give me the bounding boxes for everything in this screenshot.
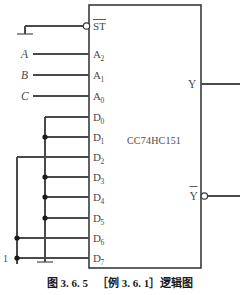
output-label-ybar: Y: [190, 190, 199, 202]
pin-sub-d4: 4: [101, 197, 105, 206]
pin-sub-d2: 2: [101, 157, 105, 166]
pin-sub-a1: 1: [101, 75, 105, 84]
logic-one-label: 1: [3, 253, 8, 264]
junction-dot-d7: [14, 255, 19, 260]
pin-sub-d6: 6: [101, 238, 105, 247]
chip-part-number: CC74HC151: [127, 135, 181, 146]
pin-sub-d3: 3: [101, 177, 105, 186]
output-label-y: Y: [188, 78, 197, 90]
junction-dot-d1: [42, 134, 47, 139]
caption-number: 图 3. 6. 5: [47, 277, 88, 289]
junction-dot-d6: [14, 235, 19, 240]
junction-dot-d5: [42, 215, 47, 220]
st-pin-label: ST: [93, 20, 106, 32]
signal-label-c: C: [21, 90, 29, 102]
logic-diagram: ST A B C A 2 A 1 A 0 D 0 D 1 D 2 D 3 D 4…: [0, 0, 240, 295]
figure-caption: 图 3. 6. 5［例 3. 6. 1］逻辑图: [0, 274, 240, 290]
pin-sub-d0: 0: [101, 117, 105, 126]
junction-dot-d3: [42, 174, 47, 179]
pin-sub-d1: 1: [101, 137, 105, 146]
signal-label-a: A: [20, 48, 29, 60]
pin-sub-d7: 7: [101, 258, 105, 267]
junction-dot-d4: [42, 194, 47, 199]
pin-sub-a2: 2: [101, 54, 105, 63]
pin-sub-d5: 5: [101, 218, 105, 227]
ybar-inversion-bubble: [201, 193, 207, 199]
pin-sub-a0: 0: [101, 96, 105, 105]
st-inversion-bubble: [83, 23, 89, 29]
signal-label-b: B: [21, 69, 28, 81]
figure-container: ST A B C A 2 A 1 A 0 D 0 D 1 D 2 D 3 D 4…: [0, 0, 240, 295]
caption-title: ［例 3. 6. 1］逻辑图: [97, 277, 193, 289]
